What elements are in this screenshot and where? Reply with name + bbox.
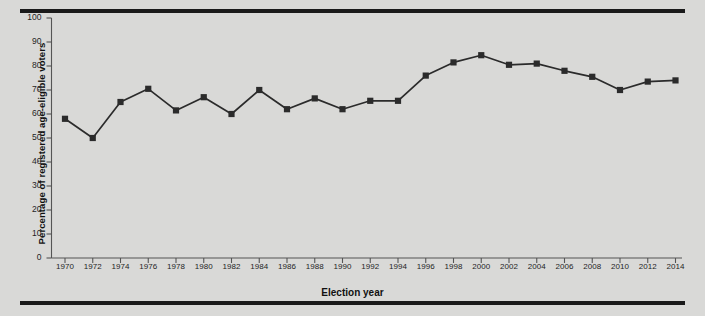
data-point-marker: [367, 98, 373, 104]
figure-container: Percentage of registered age-eligible vo…: [0, 0, 705, 316]
y-tick-label: 20: [18, 204, 42, 214]
y-tick-label: 50: [18, 132, 42, 142]
data-point-marker: [423, 73, 429, 79]
y-tick-label: 90: [18, 36, 42, 46]
x-axis-title: Election year: [0, 287, 705, 298]
data-point-marker: [339, 106, 345, 112]
data-point-marker: [395, 98, 401, 104]
data-point-marker: [62, 116, 68, 122]
y-tick-label: 30: [18, 180, 42, 190]
data-point-marker: [617, 87, 623, 93]
data-point-marker: [284, 106, 290, 112]
y-tick-label: 60: [18, 108, 42, 118]
data-point-marker: [534, 61, 540, 67]
y-tick-label: 40: [18, 156, 42, 166]
data-point-marker: [478, 52, 484, 58]
data-point-marker: [173, 107, 179, 113]
y-tick-label: 10: [18, 228, 42, 238]
data-point-marker: [228, 111, 234, 117]
data-point-marker: [117, 99, 123, 105]
data-point-marker: [90, 135, 96, 141]
data-point-marker: [506, 62, 512, 68]
data-point-marker: [256, 87, 262, 93]
data-series-line: [65, 55, 676, 138]
data-point-marker: [589, 74, 595, 80]
data-point-marker: [561, 68, 567, 74]
data-point-marker: [672, 77, 678, 83]
data-point-marker: [201, 94, 207, 100]
y-tick-label: 100: [18, 12, 42, 22]
data-point-marker: [645, 79, 651, 85]
y-tick-label: 80: [18, 60, 42, 70]
data-point-marker: [450, 59, 456, 65]
y-tick-label: 0: [18, 252, 42, 262]
data-point-marker: [312, 95, 318, 101]
data-point-marker: [145, 86, 151, 92]
x-tick-label: 2014: [659, 262, 693, 271]
y-tick-label: 70: [18, 84, 42, 94]
